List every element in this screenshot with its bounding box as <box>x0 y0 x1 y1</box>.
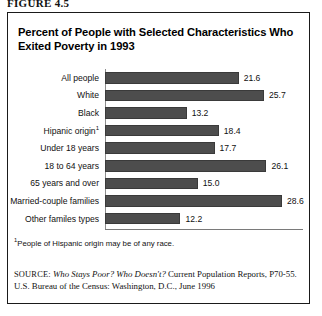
bar-track: 21.6 <box>105 69 311 87</box>
source-kicker: SOURCE: <box>14 270 51 279</box>
bar-track: 28.6 <box>105 192 311 210</box>
bar <box>105 72 239 84</box>
bar-category-label: All people <box>8 73 105 83</box>
bar-category-label: Other familes types <box>8 214 105 224</box>
bar-track: 15.0 <box>105 175 311 193</box>
bar <box>105 107 187 119</box>
bar-track: 25.7 <box>105 87 311 105</box>
bar <box>105 178 198 190</box>
bar-row: All people21.6 <box>8 69 311 87</box>
source-publication-title: Who Stays Poor? Who Doesn't? <box>53 269 166 279</box>
bar <box>105 160 266 172</box>
bar-track: 18.4 <box>105 122 311 140</box>
bar <box>105 90 264 102</box>
bar-track: 26.1 <box>105 157 311 175</box>
bar-row: Married-couple families28.6 <box>8 192 311 210</box>
bar-category-label: White <box>8 90 105 100</box>
figure-panel: Percent of People with Selected Characte… <box>7 12 310 304</box>
bar-value-label: 21.6 <box>244 73 261 83</box>
figure-number: FIGURE 4.5 <box>7 0 69 10</box>
bar-rows: All people21.6White25.7Black13.2Hipanic … <box>8 69 311 227</box>
bar-category-label: Under 18 years <box>8 143 105 153</box>
x-axis-baseline <box>105 229 303 230</box>
bar-row: White25.7 <box>8 87 311 105</box>
bar-row: Other familes types12.2 <box>8 210 311 228</box>
bar-value-label: 25.7 <box>269 90 286 100</box>
bar-value-label: 18.4 <box>224 126 241 136</box>
bar-value-label: 15.0 <box>203 178 220 188</box>
bar-chart: All people21.6White25.7Black13.2Hipanic … <box>8 69 311 233</box>
source-citation: SOURCE: Who Stays Poor? Who Doesn't? Cur… <box>14 269 306 292</box>
bar-category-label: Hipanic origin1 <box>8 126 105 136</box>
bar <box>105 213 180 225</box>
chart-title: Percent of People with Selected Characte… <box>18 25 300 53</box>
bar-value-label: 17.7 <box>220 143 237 153</box>
bar-category-label: Black <box>8 108 105 118</box>
bar-value-label: 12.2 <box>185 214 202 224</box>
bar <box>105 142 215 154</box>
bar-value-label: 28.6 <box>287 196 304 206</box>
footnote-text: People of Hispanic origin may be of any … <box>17 239 174 248</box>
bar-row: Hipanic origin118.4 <box>8 122 311 140</box>
bar-label-footnote-marker: 1 <box>96 125 99 131</box>
bar-value-label: 13.2 <box>192 108 209 118</box>
bar-row: Under 18 years17.7 <box>8 139 311 157</box>
bar-value-label: 26.1 <box>271 161 288 171</box>
bar-track: 12.2 <box>105 210 311 228</box>
footnote: 1People of Hispanic origin may be of any… <box>14 239 304 249</box>
bar <box>105 125 219 137</box>
bar-row: 65 years and over15.0 <box>8 175 311 193</box>
bar <box>105 195 282 207</box>
bar-category-label: 65 years and over <box>8 178 105 188</box>
bar-track: 13.2 <box>105 104 311 122</box>
bar-category-label: 18 to 64 years <box>8 161 105 171</box>
bar-category-label: Married-couple families <box>8 196 105 206</box>
bar-row: Black13.2 <box>8 104 311 122</box>
bar-track: 17.7 <box>105 139 311 157</box>
bar-row: 18 to 64 years26.1 <box>8 157 311 175</box>
